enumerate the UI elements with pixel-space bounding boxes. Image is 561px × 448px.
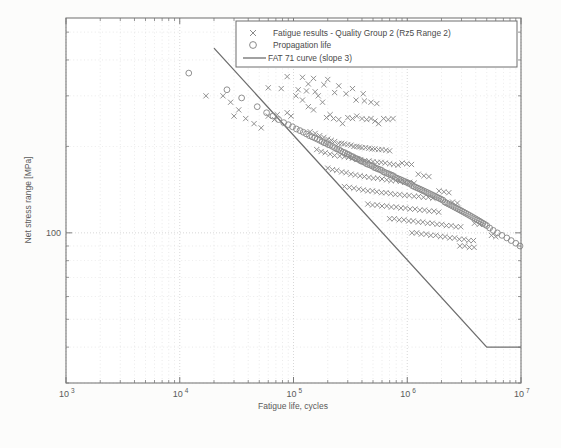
legend-label-propagation-life: Propagation life (273, 40, 332, 50)
x-tick-exponent: 7 (526, 387, 530, 394)
y-axis-tick-labels: 100 (46, 228, 61, 238)
legend-entry-fatigue-results: Fatigue results - Quality Group 2 (Rz5 R… (250, 28, 451, 38)
figure-container: 103104105106107 100 Fatigue life, cycles… (0, 0, 561, 448)
legend-label-fat71: FAT 71 curve (slope 3) (268, 53, 352, 63)
x-tick-label: 10 (514, 389, 524, 399)
fatigue-scatter-chart: 103104105106107 100 Fatigue life, cycles… (0, 0, 561, 448)
x-tick-label: 10 (400, 389, 410, 399)
chart-legend: Fatigue results - Quality Group 2 (Rz5 R… (236, 21, 517, 67)
y-axis-label: Net stress range [MPa] (23, 157, 33, 244)
legend-label-fatigue-results: Fatigue results - Quality Group 2 (Rz5 R… (273, 28, 451, 38)
x-tick-exponent: 6 (412, 387, 416, 394)
x-tick-exponent: 4 (185, 387, 189, 394)
x-tick-label: 10 (173, 389, 183, 399)
x-tick-exponent: 3 (71, 387, 75, 394)
x-axis-label: Fatigue life, cycles (258, 401, 328, 411)
y-tick-label: 100 (46, 228, 61, 238)
x-tick-label: 10 (287, 389, 297, 399)
x-tick-label: 10 (59, 389, 69, 399)
x-tick-exponent: 5 (299, 387, 303, 394)
